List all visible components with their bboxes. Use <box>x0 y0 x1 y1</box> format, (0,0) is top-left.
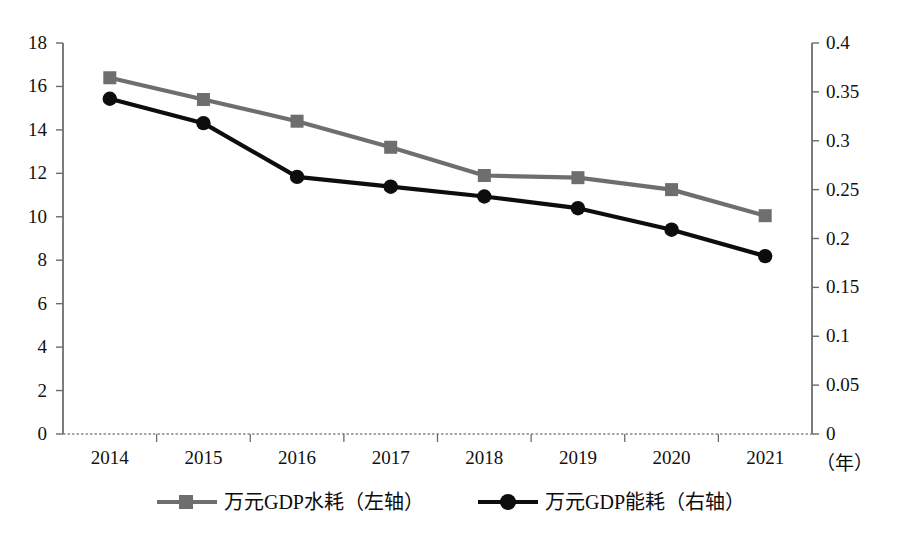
y-left-tick-6: 6 <box>0 294 47 313</box>
x-tick-2018: 2018 <box>438 448 532 467</box>
y-left-tick-18: 18 <box>0 33 47 52</box>
legend-marker-square-icon <box>157 493 217 511</box>
y-left-tick-4: 4 <box>0 337 47 356</box>
legend-item-energy[interactable]: 万元GDP能耗（右轴） <box>478 492 745 512</box>
data-point-0-2021 <box>759 209 772 222</box>
data-point-1-2014 <box>103 92 117 106</box>
data-point-1-2015 <box>196 116 210 130</box>
y-left-tick-16: 16 <box>0 76 47 95</box>
y-right-tick-0.25: 0.25 <box>826 180 902 199</box>
y-right-tick-0.35: 0.35 <box>826 82 902 101</box>
y-right-tick-0.2: 0.2 <box>826 229 902 248</box>
data-point-1-2017 <box>383 179 397 193</box>
y-left-tick-0: 0 <box>0 424 47 443</box>
y-right-tick-0.05: 0.05 <box>826 375 902 394</box>
x-tick-2016: 2016 <box>250 448 344 467</box>
data-point-1-2016 <box>290 170 304 184</box>
data-point-0-2019 <box>571 171 584 184</box>
x-tick-2019: 2019 <box>531 448 625 467</box>
x-tick-2015: 2015 <box>157 448 251 467</box>
legend-label-water: 万元GDP水耗（左轴） <box>224 492 424 512</box>
y-right-tick-0.3: 0.3 <box>826 131 902 150</box>
y-right-tick-0.4: 0.4 <box>826 33 902 52</box>
chart-legend: 万元GDP水耗（左轴） 万元GDP能耗（右轴） <box>0 492 902 512</box>
y-left-tick-10: 10 <box>0 207 47 226</box>
x-tick-2020: 2020 <box>625 448 719 467</box>
data-point-0-2016 <box>291 115 304 128</box>
data-point-1-2020 <box>664 223 678 237</box>
data-point-0-2017 <box>384 141 397 154</box>
y-left-tick-12: 12 <box>0 163 47 182</box>
x-tick-2014: 2014 <box>63 448 157 467</box>
legend-item-water[interactable]: 万元GDP水耗（左轴） <box>157 492 424 512</box>
chart-container: 万元GDP水耗（左轴） 万元GDP能耗（右轴） 0246810121416180… <box>0 0 902 541</box>
data-point-0-2014 <box>103 71 116 84</box>
y-left-tick-14: 14 <box>0 120 47 139</box>
legend-label-energy: 万元GDP能耗（右轴） <box>545 492 745 512</box>
data-point-1-2019 <box>571 201 585 215</box>
x-tick-2017: 2017 <box>344 448 438 467</box>
y-right-tick-0: 0 <box>826 424 902 443</box>
x-axis-unit-label: （年） <box>816 448 873 475</box>
data-point-0-2020 <box>665 183 678 196</box>
y-right-tick-0.15: 0.15 <box>826 277 902 296</box>
data-point-0-2018 <box>478 169 491 182</box>
data-point-1-2021 <box>758 249 772 263</box>
y-right-tick-0.1: 0.1 <box>826 326 902 345</box>
data-point-0-2015 <box>197 93 210 106</box>
x-tick-2021: 2021 <box>718 448 812 467</box>
y-left-tick-8: 8 <box>0 250 47 269</box>
data-point-1-2018 <box>477 189 491 203</box>
legend-marker-circle-icon <box>478 493 538 511</box>
y-left-tick-2: 2 <box>0 381 47 400</box>
